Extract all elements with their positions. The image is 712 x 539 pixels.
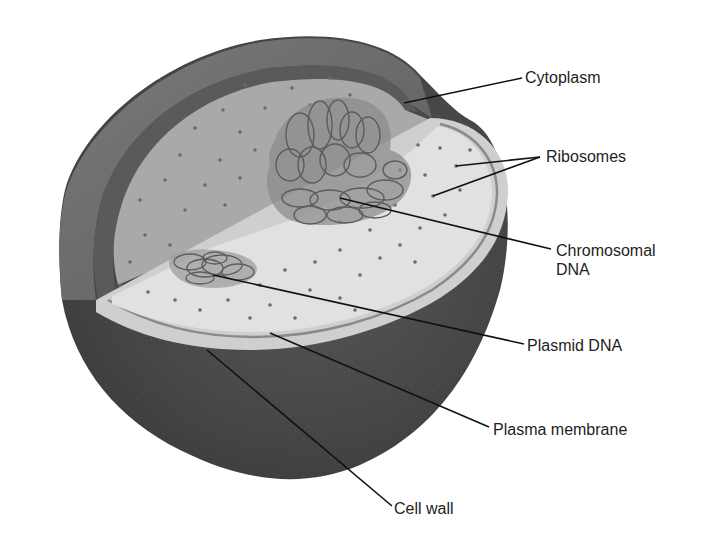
label-chromosomal-dna-line2: DNA: [556, 260, 656, 279]
label-chromosomal-dna-line1: Chromosomal: [556, 241, 656, 260]
label-plasma-membrane: Plasma membrane: [493, 420, 627, 439]
label-cell-wall: Cell wall: [394, 499, 454, 518]
label-cytoplasm: Cytoplasm: [525, 68, 601, 87]
label-plasmid-dna: Plasmid DNA: [527, 336, 622, 355]
label-chromosomal-dna: Chromosomal DNA: [556, 241, 656, 279]
bacterial-cell-diagram: Cytoplasm Ribosomes Chromosomal DNA Plas…: [0, 0, 712, 539]
label-ribosomes: Ribosomes: [546, 147, 626, 166]
